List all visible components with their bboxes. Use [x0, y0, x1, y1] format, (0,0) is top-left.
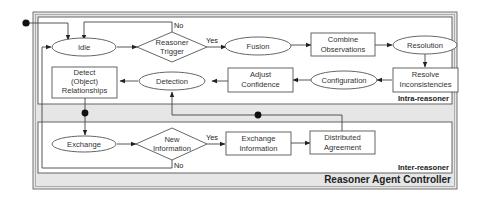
node-idle[interactable]: Idle — [52, 38, 116, 56]
svg-text:Exchange: Exchange — [242, 134, 276, 143]
svg-text:New: New — [164, 135, 180, 144]
node-exchange-information[interactable]: Exchange Information — [226, 132, 291, 155]
svg-text:Distributed: Distributed — [324, 133, 360, 142]
intra-reasoner-label: Intra-reasoner — [398, 94, 449, 103]
trigger-yes-label: Yes — [206, 36, 218, 45]
svg-text:Reasoner: Reasoner — [156, 38, 189, 47]
svg-text:Information: Information — [153, 144, 191, 153]
svg-text:Idle: Idle — [78, 43, 90, 52]
inter-reasoner-label: Inter-reasoner — [398, 163, 449, 172]
node-combine-observations[interactable]: Combine Observations — [311, 33, 375, 56]
svg-text:Configuration: Configuration — [321, 76, 366, 85]
svg-text:Information: Information — [240, 144, 278, 153]
trigger-no-label: No — [174, 21, 183, 30]
svg-text:Resolve: Resolve — [412, 70, 439, 79]
newinfo-no-label: No — [174, 161, 183, 170]
svg-text:Combine: Combine — [328, 35, 358, 44]
reasoner-agent-diagram: Reasoner Agent Controller Intra-reasoner… — [0, 0, 490, 199]
svg-text:Detect: Detect — [74, 68, 97, 77]
node-resolution[interactable]: Resolution — [393, 36, 457, 54]
node-adjust-confidence[interactable]: Adjust Confidence — [228, 68, 293, 92]
svg-text:(Object): (Object) — [71, 77, 98, 86]
svg-text:Adjust: Adjust — [250, 70, 272, 79]
node-resolve-inconsistencies[interactable]: Resolve Inconsistencies — [393, 68, 458, 92]
svg-text:Confidence: Confidence — [241, 80, 279, 89]
svg-text:Relationships: Relationships — [62, 86, 108, 95]
svg-text:Resolution: Resolution — [407, 41, 443, 50]
node-exchange[interactable]: Exchange — [52, 136, 116, 152]
node-detect-relationships[interactable]: Detect (Object) Relationships — [52, 67, 117, 98]
svg-text:Fusion: Fusion — [247, 42, 270, 51]
join-dot-agreement-icon — [255, 112, 262, 119]
node-configuration[interactable]: Configuration — [311, 71, 377, 89]
node-detection[interactable]: Detection — [139, 72, 205, 90]
controller-label: Reasoner Agent Controller — [324, 174, 451, 185]
svg-text:Exchange: Exchange — [67, 140, 101, 149]
node-distributed-agreement[interactable]: Distributed Agreement — [310, 131, 375, 154]
newinfo-yes-label: Yes — [206, 133, 218, 142]
join-dot-exchange-icon — [82, 110, 89, 117]
svg-text:Observations: Observations — [321, 45, 366, 54]
node-fusion[interactable]: Fusion — [225, 37, 291, 55]
svg-text:Agreement: Agreement — [324, 143, 362, 152]
svg-text:Inconsistencies: Inconsistencies — [400, 80, 452, 89]
start-node-icon — [22, 19, 29, 26]
svg-text:Detection: Detection — [156, 77, 188, 86]
svg-text:Trigger: Trigger — [160, 47, 184, 56]
